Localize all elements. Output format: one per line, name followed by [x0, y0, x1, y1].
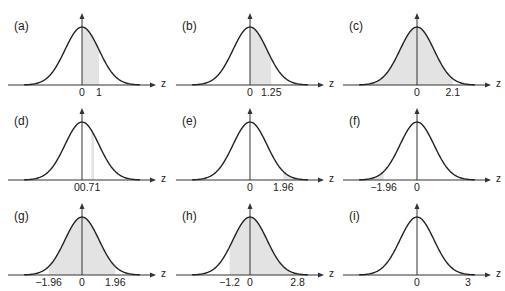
shaded-area	[82, 27, 99, 85]
x-axis-label: z	[496, 173, 501, 184]
y-axis-arrow-icon	[80, 108, 85, 114]
x-axis-label: z	[329, 173, 334, 184]
panel-b: (b)01.25z	[168, 0, 336, 97]
panel-g: (g)−1.9601.96z	[0, 190, 168, 287]
y-axis-arrow-icon	[248, 108, 253, 114]
y-axis-arrow-icon	[80, 13, 85, 19]
panel-f: (f)−1.960z	[335, 95, 503, 192]
x-axis-label: z	[161, 268, 166, 279]
panel-label: (g)	[14, 209, 29, 223]
tick-label: 3	[465, 276, 471, 288]
panel-label: (h)	[182, 209, 197, 223]
panel-i: (i)03z	[335, 190, 503, 287]
panel-a: (a)01z	[0, 0, 168, 97]
panel-d: (d)00.71z	[0, 95, 168, 192]
x-axis-arrow-icon	[485, 273, 491, 278]
tick-label: 0	[247, 276, 253, 288]
x-axis-arrow-icon	[485, 178, 491, 183]
x-axis-label: z	[161, 173, 166, 184]
x-axis-label: z	[329, 78, 334, 89]
panel-label: (f)	[349, 114, 360, 128]
x-axis-arrow-icon	[318, 273, 324, 278]
panel-label: (e)	[182, 114, 197, 128]
y-axis-arrow-icon	[415, 108, 420, 114]
x-axis-label: z	[161, 78, 166, 89]
normal-distribution-figure: (a)01z(b)01.25z(c)02.1z(d)00.71z(e)01.96…	[0, 0, 505, 291]
y-axis-arrow-icon	[415, 13, 420, 19]
shaded-area	[359, 27, 453, 85]
panel-label: (a)	[14, 19, 29, 33]
y-axis-arrow-icon	[415, 203, 420, 209]
tick-label: −1.96	[35, 276, 62, 288]
tick-label: 0	[414, 276, 420, 288]
panel-label: (d)	[14, 114, 29, 128]
panel-c: (c)02.1z	[335, 0, 503, 97]
y-axis-arrow-icon	[248, 203, 253, 209]
shaded-area	[250, 27, 271, 85]
panel-h: (h)−1.202.8z	[168, 190, 336, 287]
tick-label: 2.8	[290, 276, 305, 288]
tick-label: 1.96	[105, 276, 125, 288]
x-axis-arrow-icon	[150, 273, 156, 278]
x-axis-label: z	[329, 268, 334, 279]
panel-e: (e)01.96z	[168, 95, 336, 192]
panel-label: (b)	[182, 19, 197, 33]
x-axis-arrow-icon	[150, 178, 156, 183]
panel-label: (c)	[349, 19, 363, 33]
tick-label: 0	[79, 276, 85, 288]
x-axis-arrow-icon	[485, 83, 491, 88]
shaded-area	[91, 130, 94, 180]
x-axis-arrow-icon	[318, 83, 324, 88]
x-axis-label: z	[496, 268, 501, 279]
panel-label: (i)	[349, 209, 360, 223]
x-axis-arrow-icon	[150, 83, 156, 88]
x-axis-label: z	[496, 78, 501, 89]
y-axis-arrow-icon	[80, 203, 85, 209]
x-axis-arrow-icon	[318, 178, 324, 183]
y-axis-arrow-icon	[248, 13, 253, 19]
tick-label: −1.2	[219, 276, 240, 288]
